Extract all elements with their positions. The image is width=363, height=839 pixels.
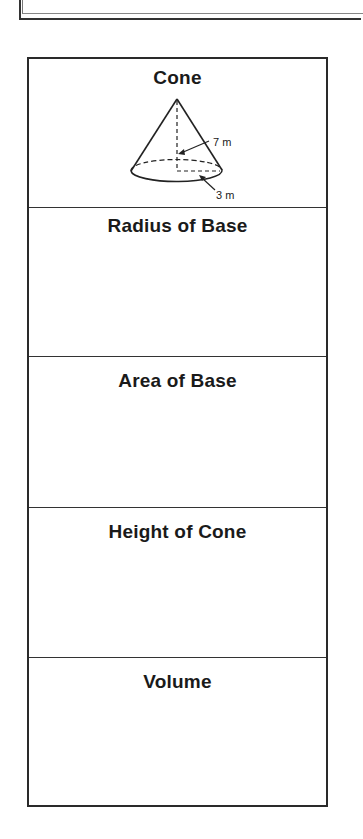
answer-area[interactable] (29, 237, 326, 347)
section-volume: Volume (29, 658, 326, 805)
section-radius-of-base: Radius of Base (29, 208, 326, 357)
cone-worksheet: Cone 7 m 3 m Radius of Base Area of Bas (27, 57, 328, 807)
section-cone-header: Cone 7 m 3 m (29, 59, 326, 208)
section-title: Volume (29, 671, 326, 693)
section-title: Area of Base (29, 370, 326, 392)
section-title: Height of Cone (29, 521, 326, 543)
answer-area[interactable] (29, 693, 326, 803)
section-title: Radius of Base (29, 215, 326, 237)
radius-label: 3 m (216, 189, 234, 201)
answer-area[interactable] (29, 543, 326, 653)
cone-diagram-icon: 7 m 3 m (29, 59, 326, 207)
previous-worksheet-box-inner-border (22, 0, 363, 14)
answer-area[interactable] (29, 392, 326, 502)
height-label: 7 m (213, 136, 231, 148)
section-height-of-cone: Height of Cone (29, 508, 326, 658)
section-area-of-base: Area of Base (29, 357, 326, 508)
